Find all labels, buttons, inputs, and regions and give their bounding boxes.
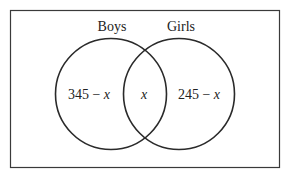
boys-only-var: x <box>103 87 111 102</box>
girls-only-var: x <box>213 87 221 102</box>
girls-only-region-value: 245 − x <box>178 87 221 102</box>
girls-only-minus: − <box>199 87 214 102</box>
girls-label: Girls <box>167 19 195 34</box>
boys-label: Boys <box>98 19 127 34</box>
intersection-region-value: x <box>140 87 148 102</box>
boys-only-minus: − <box>89 87 104 102</box>
boys-only-region-value: 345 − x <box>68 87 111 102</box>
girls-only-number: 245 <box>178 87 199 102</box>
venn-diagram: Boys Girls 345 − x x 245 − x <box>0 0 284 172</box>
boys-only-number: 345 <box>68 87 89 102</box>
